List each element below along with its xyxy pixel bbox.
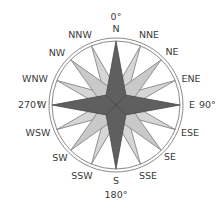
label-S: S (113, 175, 119, 186)
label-ESE: ESE (181, 127, 199, 138)
compass-rose: 0° N NNE NE ENE E 90° ESE SE SSE S 180° … (0, 0, 222, 209)
label-W: W (37, 99, 47, 110)
label-SSE: SSE (139, 170, 157, 181)
label-NNE: NNE (139, 29, 159, 40)
label-N: N (112, 23, 119, 34)
label-SW: SW (52, 152, 68, 163)
label-SE: SE (164, 151, 176, 162)
label-east-degrees: 90° (199, 99, 216, 110)
label-NNW: NNW (68, 29, 92, 40)
label-SSW: SSW (71, 170, 93, 181)
label-E: E (189, 99, 195, 110)
label-NE: NE (165, 46, 178, 57)
label-WNW: WNW (22, 73, 48, 84)
label-WSW: WSW (26, 127, 51, 138)
label-south-degrees: 180° (105, 189, 128, 200)
label-ENE: ENE (181, 73, 200, 84)
label-north-degrees: 0° (111, 11, 122, 22)
label-NW: NW (49, 47, 66, 58)
